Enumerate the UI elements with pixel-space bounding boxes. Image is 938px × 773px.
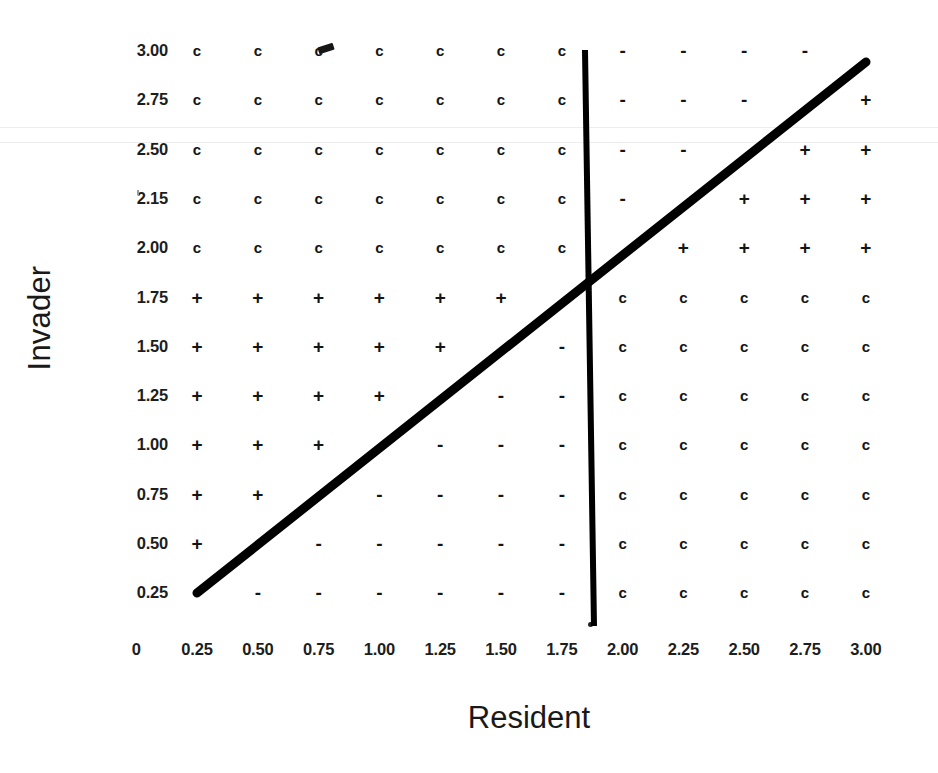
grid-cell-symbol: c: [425, 190, 455, 205]
grid-cell-symbol: c: [547, 190, 577, 205]
grid-cell-symbol: +: [851, 238, 881, 257]
grid-cell-symbol: +: [182, 287, 212, 306]
grid-cell-symbol: -: [547, 435, 577, 454]
grid-cell-symbol: +: [851, 139, 881, 158]
grid-cell-symbol: c: [425, 240, 455, 255]
grid-cell-symbol: c: [668, 289, 698, 304]
grid-cell-symbol: c: [243, 141, 273, 156]
grid-cell-symbol: -: [668, 139, 698, 158]
y-tick-label: 0.75: [104, 484, 168, 503]
grid-cell-symbol: c: [304, 190, 334, 205]
diagonal-isocline-line: [197, 62, 866, 593]
x-tick-label: 0.75: [284, 640, 354, 659]
grid-cell-symbol: c: [182, 240, 212, 255]
grid-cell-symbol: c: [790, 388, 820, 403]
y-tick-label: 2.00: [104, 238, 168, 257]
grid-cell-symbol: c: [364, 190, 394, 205]
grid-cell-symbol: +: [243, 386, 273, 405]
grid-cell-symbol: -: [486, 484, 516, 503]
grid-cell-symbol: c: [182, 43, 212, 58]
grid-cell-symbol: c: [851, 388, 881, 403]
grid-cell-symbol: c: [790, 437, 820, 452]
grid-cell-symbol: c: [547, 92, 577, 107]
ink-speck-artifact: [137, 190, 139, 195]
vertical-isocline-line: [585, 50, 594, 626]
grid-cell-symbol: c: [668, 486, 698, 501]
grid-cell-symbol: c: [668, 388, 698, 403]
y-tick-label: 1.25: [104, 386, 168, 405]
grid-cell-symbol: c: [182, 92, 212, 107]
grid-cell-symbol: +: [182, 386, 212, 405]
x-tick-label: 3.00: [831, 640, 901, 659]
grid-cell-symbol: +: [304, 287, 334, 306]
y-axis-title: Invader: [22, 218, 58, 418]
grid-cell-symbol: c: [790, 536, 820, 551]
grid-cell-symbol: c: [851, 338, 881, 353]
y-tick-label: 0.25: [104, 583, 168, 602]
grid-cell-symbol: c: [304, 240, 334, 255]
x-tick-label: 1.00: [344, 640, 414, 659]
grid-cell-symbol: c: [668, 536, 698, 551]
grid-cell-symbol: +: [851, 90, 881, 109]
grid-cell-symbol: c: [851, 536, 881, 551]
grid-cell-symbol: -: [668, 90, 698, 109]
grid-cell-symbol: -: [608, 139, 638, 158]
grid-cell-symbol: +: [182, 435, 212, 454]
y-tick-label: 0.50: [104, 534, 168, 553]
grid-cell-symbol: +: [729, 188, 759, 207]
grid-cell-symbol: c: [729, 338, 759, 353]
grid-cell-symbol: +: [425, 287, 455, 306]
y-tick-label: 1.75: [104, 287, 168, 306]
grid-cell-symbol: c: [486, 92, 516, 107]
grid-cell-symbol: -: [547, 386, 577, 405]
grid-cell-symbol: c: [425, 43, 455, 58]
grid-cell-symbol: -: [486, 583, 516, 602]
grid-cell-symbol: c: [182, 190, 212, 205]
grid-cell-symbol: c: [182, 141, 212, 156]
grid-cell-symbol: c: [790, 289, 820, 304]
x-tick-label: 1.50: [466, 640, 536, 659]
grid-cell-symbol: c: [790, 585, 820, 600]
grid-cell-symbol: +: [182, 484, 212, 503]
grid-cell-symbol: c: [486, 141, 516, 156]
y-tick-label: 2.75: [104, 90, 168, 109]
grid-cell-symbol: c: [608, 437, 638, 452]
grid-cell-symbol: c: [608, 585, 638, 600]
grid-cell-symbol: -: [304, 583, 334, 602]
grid-cell-symbol: c: [668, 437, 698, 452]
grid-cell-symbol: c: [243, 43, 273, 58]
grid-cell-symbol: c: [851, 486, 881, 501]
y-tick-label: 1.50: [104, 336, 168, 355]
x-tick-label: 1.75: [527, 640, 597, 659]
y-tick-label: 3.00: [104, 41, 168, 60]
grid-cell-symbol: -: [243, 583, 273, 602]
grid-cell-symbol: +: [790, 238, 820, 257]
grid-cell-symbol: -: [547, 336, 577, 355]
grid-cell-symbol: c: [486, 43, 516, 58]
grid-cell-symbol: c: [608, 388, 638, 403]
grid-cell-symbol: +: [364, 336, 394, 355]
x-tick-label: 2.25: [648, 640, 718, 659]
grid-cell-symbol: c: [729, 585, 759, 600]
grid-cell-symbol: +: [243, 287, 273, 306]
grid-cell-symbol: c: [425, 92, 455, 107]
grid-cell-symbol: c: [729, 486, 759, 501]
grid-cell-symbol: c: [486, 240, 516, 255]
grid-cell-symbol: -: [729, 90, 759, 109]
grid-cell-symbol: +: [668, 238, 698, 257]
grid-cell-symbol: -: [425, 583, 455, 602]
grid-cell-symbol: +: [182, 336, 212, 355]
grid-cell-symbol: c: [668, 338, 698, 353]
grid-cell-symbol: c: [608, 486, 638, 501]
grid-cell-symbol: c: [425, 141, 455, 156]
grid-cell-symbol: -: [425, 435, 455, 454]
grid-cell-symbol: +: [425, 336, 455, 355]
grid-cell-symbol: -: [364, 583, 394, 602]
grid-cell-symbol: c: [364, 240, 394, 255]
grid-cell-symbol: +: [304, 336, 334, 355]
grid-cell-symbol: c: [851, 437, 881, 452]
grid-cell-symbol: -: [486, 386, 516, 405]
x-tick-label: 2.75: [770, 640, 840, 659]
grid-cell-symbol: c: [547, 240, 577, 255]
grid-cell-symbol: -: [668, 41, 698, 60]
